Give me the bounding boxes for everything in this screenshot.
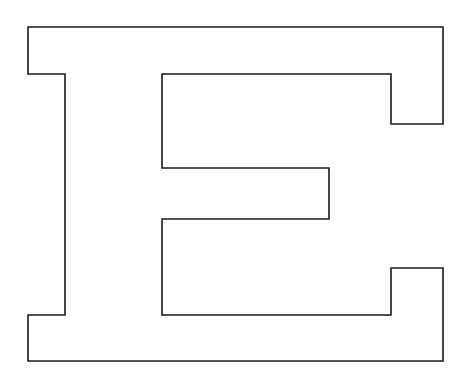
drawing-canvas: E bbox=[0, 0, 467, 385]
letter-e-outline bbox=[28, 27, 443, 361]
letter-e-drawing bbox=[0, 0, 467, 385]
